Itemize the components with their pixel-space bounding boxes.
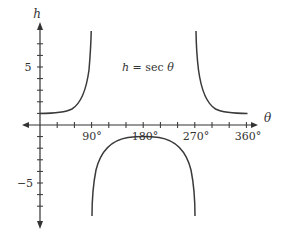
x-axis-label: θ (264, 111, 272, 125)
sec-curves (40, 31, 248, 216)
branch-right (196, 31, 248, 113)
x-tick-label-270: 270° (183, 130, 210, 143)
equation-label: h = sec θ (122, 61, 174, 74)
y-tick-label-5: 5 (25, 61, 32, 74)
y-axis-label: h (33, 7, 41, 21)
branch-left (40, 31, 91, 113)
y-axis-up-arrow-icon (37, 22, 43, 30)
x-tick-label-90: 90° (82, 130, 102, 143)
equation-h: h (122, 61, 129, 74)
y-tick-label-neg5: −5 (17, 177, 33, 190)
x-tick-label-180: 180° (132, 130, 159, 143)
x-tick-label-360: 360° (235, 130, 262, 143)
sec-chart: h θ 5 −5 90° 180° 270° 360° h = sec θ (0, 0, 285, 238)
equation-theta: θ (167, 61, 174, 74)
x-axis-left-arrow-icon (22, 122, 29, 128)
branch-middle (92, 137, 195, 216)
y-axis-down-arrow-icon (37, 221, 43, 229)
x-axis-right-arrow-icon (251, 122, 258, 128)
equation-sec: = sec (129, 61, 167, 74)
